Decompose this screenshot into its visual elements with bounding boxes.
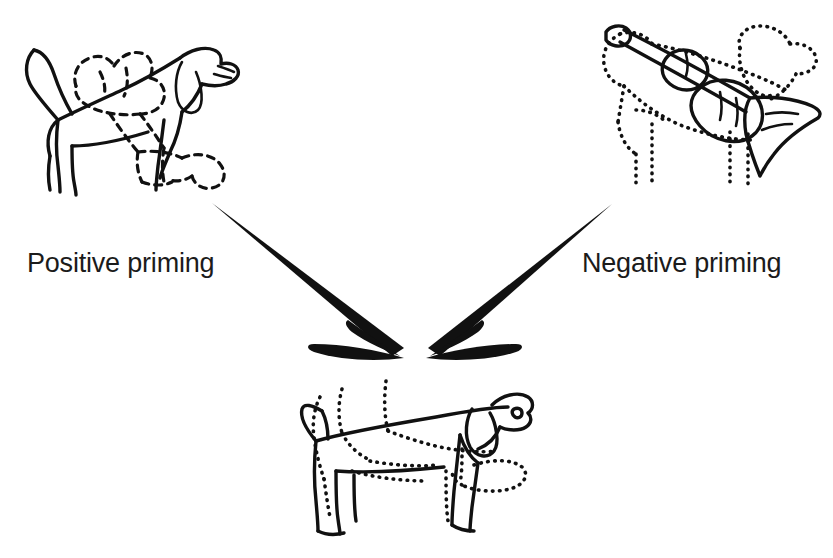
target-stimulus-dog	[296, 375, 536, 540]
arrow-positive	[212, 203, 404, 360]
label-positive-priming: Positive priming	[27, 250, 214, 277]
arrow-negative	[426, 204, 612, 360]
label-negative-priming: Negative priming	[582, 250, 781, 277]
target-dog-solid	[302, 394, 533, 534]
priming-figure: Positive priming Negative priming	[0, 0, 833, 558]
